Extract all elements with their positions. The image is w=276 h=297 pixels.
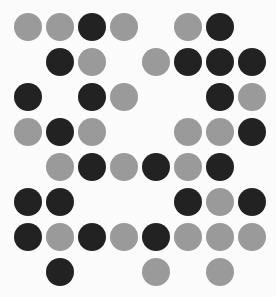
gray-dot-r7-c4: [142, 258, 170, 286]
dark-dot-r2-c2: [78, 83, 106, 111]
gray-dot-r6-c5: [174, 223, 202, 251]
gray-dot-r6-c3: [110, 223, 138, 251]
dark-dot-r7-c1: [46, 258, 74, 286]
dark-dot-r1-c5: [174, 48, 202, 76]
gray-dot-r4-c3: [110, 153, 138, 181]
dark-dot-r5-c5: [174, 188, 202, 216]
gray-dot-r3-c2: [78, 118, 106, 146]
gray-dot-r4-c1: [46, 153, 74, 181]
gray-dot-r0-c3: [110, 13, 138, 41]
dark-dot-r0-c2: [78, 13, 106, 41]
dark-dot-r6-c2: [78, 223, 106, 251]
gray-dot-r6-c1: [46, 223, 74, 251]
dark-dot-r2-c0: [14, 83, 42, 111]
dark-dot-r3-c7: [238, 118, 266, 146]
gray-dot-r2-c7: [238, 83, 266, 111]
dark-dot-r1-c7: [238, 48, 266, 76]
gray-dot-r0-c0: [14, 13, 42, 41]
gray-dot-r6-c7: [238, 223, 266, 251]
gray-dot-r1-c4: [142, 48, 170, 76]
dark-dot-r5-c0: [14, 188, 42, 216]
dark-dot-r3-c1: [46, 118, 74, 146]
dark-dot-r6-c4: [142, 223, 170, 251]
gray-dot-r3-c5: [174, 118, 202, 146]
gray-dot-r4-c5: [174, 153, 202, 181]
gray-dot-r5-c6: [206, 188, 234, 216]
dot-grid: [0, 0, 276, 297]
dark-dot-r1-c1: [46, 48, 74, 76]
gray-dot-r1-c2: [78, 48, 106, 76]
dark-dot-r1-c6: [206, 48, 234, 76]
dark-dot-r4-c4: [142, 153, 170, 181]
dark-dot-r5-c1: [46, 188, 74, 216]
gray-dot-r3-c0: [14, 118, 42, 146]
dark-dot-r4-c2: [78, 153, 106, 181]
dark-dot-r2-c6: [206, 83, 234, 111]
gray-dot-r6-c6: [206, 223, 234, 251]
gray-dot-r0-c5: [174, 13, 202, 41]
gray-dot-r2-c3: [110, 83, 138, 111]
dark-dot-r0-c6: [206, 13, 234, 41]
dark-dot-r5-c7: [238, 188, 266, 216]
gray-dot-r7-c6: [206, 258, 234, 286]
gray-dot-r0-c1: [46, 13, 74, 41]
gray-dot-r3-c6: [206, 118, 234, 146]
dark-dot-r6-c0: [14, 223, 42, 251]
dark-dot-r4-c6: [206, 153, 234, 181]
